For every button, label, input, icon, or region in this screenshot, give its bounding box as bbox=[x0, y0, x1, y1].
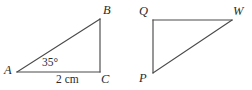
triangle-pqw-shape bbox=[153, 20, 232, 73]
vertex-label-q: Q bbox=[139, 5, 148, 18]
vertex-label-p: P bbox=[139, 72, 147, 85]
segment-pw bbox=[153, 20, 232, 73]
figure-canvas bbox=[0, 0, 252, 90]
angle-measure-label: 35° bbox=[42, 57, 58, 69]
triangle-abc-shape bbox=[17, 19, 100, 72]
vertex-label-a: A bbox=[4, 64, 12, 77]
vertex-label-w: W bbox=[233, 5, 243, 18]
vertex-label-b: B bbox=[103, 4, 111, 17]
side-length-label: 2 cm bbox=[56, 74, 79, 86]
segment-ab bbox=[17, 19, 100, 72]
vertex-label-c: C bbox=[101, 73, 109, 86]
geometry-figure: A B C Q W P 35° 2 cm bbox=[0, 0, 252, 90]
